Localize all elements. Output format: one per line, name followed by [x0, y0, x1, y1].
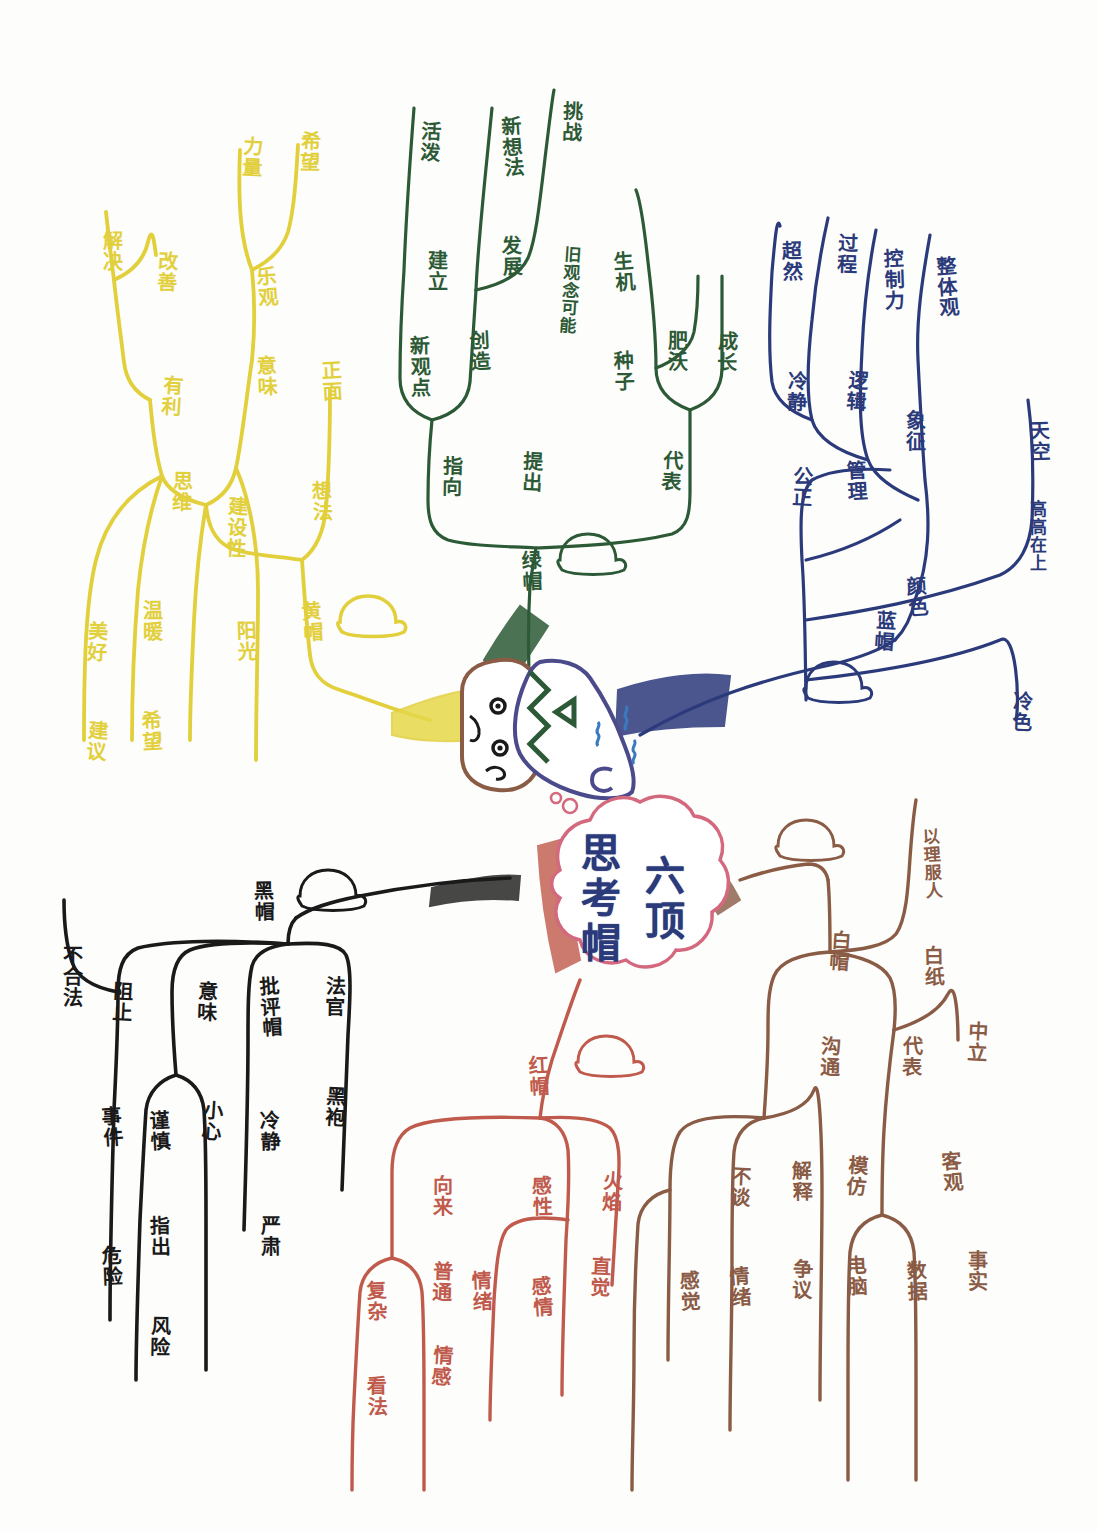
node-label-red-hat-1: 感性	[530, 1175, 552, 1217]
node-label-black-hat-3: 批评帽	[256, 974, 281, 1038]
node-label-black-hat-0: 黑帽	[252, 880, 274, 922]
node-label-white-hat-0: 白帽	[827, 929, 851, 972]
node-label-red-hat-3: 直觉	[587, 1254, 610, 1297]
node-label-green-hat-3: 建立	[425, 250, 446, 292]
node-label-black-hat-2: 黑袍	[322, 1084, 345, 1127]
node-label-blue-hat-3: 过程	[834, 232, 856, 275]
node-label-red-hat-4: 感情	[529, 1274, 553, 1317]
node-label-black-hat-6: 意味	[194, 980, 216, 1023]
node-label-green-hat-11: 种子	[611, 350, 633, 393]
node-label-black-hat-13: 危险	[99, 1245, 121, 1288]
node-label-black-hat-9: 指出	[148, 1215, 170, 1257]
node-label-yellow-hat-11: 黄帽	[299, 599, 323, 642]
node-label-black-hat-1: 法官	[323, 975, 345, 1017]
node-label-white-hat-11: 解释	[790, 1160, 812, 1202]
node-label-yellow-hat-3: 意味	[254, 355, 276, 398]
node-label-blue-hat-4: 逻辑	[844, 369, 868, 412]
node-label-red-hat-9: 复杂	[364, 1279, 387, 1322]
node-label-white-hat-14: 情绪	[727, 1264, 751, 1307]
node-label-red-hat-8: 情感	[429, 1344, 453, 1387]
node-label-green-hat-14: 代表	[659, 449, 683, 492]
node-label-red-hat-6: 向来	[430, 1175, 451, 1217]
node-label-white-hat-15: 感觉	[677, 1270, 699, 1313]
node-label-black-hat-4: 冷静	[257, 1110, 279, 1153]
node-label-white-hat-9: 模仿	[844, 1154, 868, 1197]
node-label-blue-hat-0: 整体观	[933, 254, 958, 318]
node-label-yellow-hat-2: 乐观	[254, 264, 278, 307]
node-label-green-hat-15: 绿帽	[519, 549, 542, 592]
node-label-yellow-hat-1: 力量	[239, 134, 262, 177]
green-hat-icon	[558, 534, 626, 575]
node-label-green-hat-4: 挑战	[559, 100, 581, 143]
black-hat-icon	[298, 870, 366, 911]
node-label-blue-hat-9: 颜色	[904, 574, 928, 617]
node-label-white-hat-2: 白纸	[922, 945, 944, 987]
mindmap-canvas: 六顶 思考帽 整体观控制力象征过程逻辑管理超然冷静公正颜色天空高高在上冷色蓝帽活…	[0, 0, 1097, 1531]
node-label-green-hat-13: 成长	[714, 330, 736, 373]
node-label-yellow-hat-12: 阳光	[234, 620, 256, 663]
node-label-white-hat-6: 数据	[904, 1260, 926, 1303]
yellow-hat-icon	[338, 596, 406, 637]
node-label-blue-hat-8: 公正	[789, 464, 812, 507]
node-label-red-hat-10: 看法	[365, 1375, 387, 1417]
node-label-yellow-hat-13: 温暖	[140, 600, 161, 642]
node-label-green-hat-7: 新观点	[407, 335, 429, 398]
node-label-yellow-hat-14: 美好	[84, 620, 106, 663]
node-label-yellow-hat-5: 改善	[154, 250, 176, 293]
node-label-blue-hat-10: 天空	[1027, 420, 1049, 463]
node-label-red-hat-2: 火焰	[600, 1170, 622, 1212]
node-label-yellow-hat-6: 有利	[159, 374, 183, 417]
node-label-blue-hat-12: 冷色	[1009, 690, 1031, 733]
node-label-white-hat-5: 客观	[939, 1149, 963, 1192]
center-title-col-right: 六顶	[633, 855, 691, 945]
node-label-green-hat-8: 指向	[440, 455, 462, 497]
node-label-blue-hat-6: 超然	[780, 240, 802, 282]
node-label-yellow-hat-4: 解决	[100, 230, 121, 272]
node-label-yellow-hat-15: 建议	[84, 719, 108, 762]
node-label-black-hat-5: 严肃	[258, 1215, 279, 1257]
white-hat-icon	[776, 820, 844, 861]
blue-hat-icon	[804, 662, 872, 703]
node-label-green-hat-2: 发展	[499, 235, 521, 278]
node-label-blue-hat-1: 控制力	[881, 248, 904, 312]
node-label-black-hat-12: 事件	[99, 1104, 123, 1147]
node-label-yellow-hat-0: 希望	[298, 130, 320, 172]
node-label-green-hat-9: 提出	[519, 449, 542, 492]
center-title: 六顶 思考帽	[545, 812, 715, 987]
center-title-col-left: 思考帽	[569, 832, 627, 967]
branch-hat-icons	[298, 534, 872, 1077]
node-label-green-hat-12: 肥沃	[665, 330, 686, 372]
red-hat-icon	[576, 1036, 644, 1077]
node-label-red-hat-7: 普通	[429, 1260, 451, 1303]
node-label-black-hat-14: 不合法	[60, 945, 81, 1008]
node-label-yellow-hat-7: 正面	[319, 359, 342, 402]
node-label-black-hat-7: 小心	[199, 1099, 223, 1142]
node-label-white-hat-7: 事实	[965, 1250, 986, 1292]
node-label-yellow-hat-10: 建设性	[223, 494, 247, 558]
node-label-black-hat-11: 阻止	[109, 979, 132, 1022]
node-label-white-hat-12: 争议	[790, 1258, 812, 1300]
node-label-blue-hat-13: 蓝帽	[872, 609, 896, 652]
node-label-white-hat-8: 沟通	[817, 1035, 839, 1078]
node-label-blue-hat-5: 管理	[844, 459, 867, 502]
node-label-yellow-hat-16: 希望	[139, 709, 162, 752]
node-label-yellow-hat-8: 想法	[310, 480, 332, 522]
node-label-black-hat-8: 谨慎	[147, 1109, 170, 1152]
node-label-red-hat-5: 情绪	[469, 1270, 491, 1313]
node-label-red-hat-0: 红帽	[526, 1054, 549, 1097]
big-hat-icon	[515, 661, 635, 813]
node-label-white-hat-1: 以理服人	[920, 828, 942, 901]
node-label-green-hat-0: 活泼	[417, 119, 440, 162]
node-label-white-hat-10: 电脑	[844, 1254, 867, 1297]
node-label-green-hat-1: 新想法	[498, 114, 523, 178]
node-label-white-hat-4: 中立	[964, 1019, 987, 1062]
node-label-blue-hat-2: 象征	[903, 410, 924, 452]
node-label-green-hat-10: 生机	[611, 249, 635, 292]
node-label-yellow-hat-9: 思维	[170, 470, 192, 512]
node-label-white-hat-13: 不谈	[727, 1164, 750, 1207]
node-label-green-hat-6: 创造	[467, 329, 490, 372]
node-label-black-hat-10: 风险	[148, 1315, 170, 1357]
node-label-blue-hat-11: 高高在上	[1028, 500, 1046, 572]
node-label-white-hat-3: 代表	[900, 1035, 922, 1077]
node-label-blue-hat-7: 冷静	[785, 370, 807, 412]
